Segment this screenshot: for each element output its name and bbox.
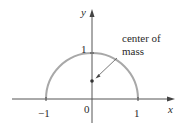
annotation-line-2: mass — [122, 45, 144, 57]
annotation-arrow — [96, 58, 118, 79]
origin-label: 0 — [84, 103, 90, 115]
x-axis — [12, 97, 175, 102]
x-tick-label-1: 1 — [134, 107, 140, 119]
y-tick-label-1: 1 — [81, 43, 87, 55]
y-axis-label: y — [80, 6, 86, 18]
x-axis-label: x — [167, 103, 173, 115]
annotation-line-1: center of — [122, 32, 161, 44]
y-axis-arrow-icon — [90, 9, 95, 17]
center-of-mass-dot — [90, 79, 94, 83]
x-tick-label-neg1: −1 — [38, 107, 50, 119]
y-axis — [90, 9, 95, 123]
semicircle-center-of-mass-figure: y x 1 0 −1 1 center of mass — [0, 0, 185, 123]
x-axis-arrow-icon — [167, 97, 175, 102]
